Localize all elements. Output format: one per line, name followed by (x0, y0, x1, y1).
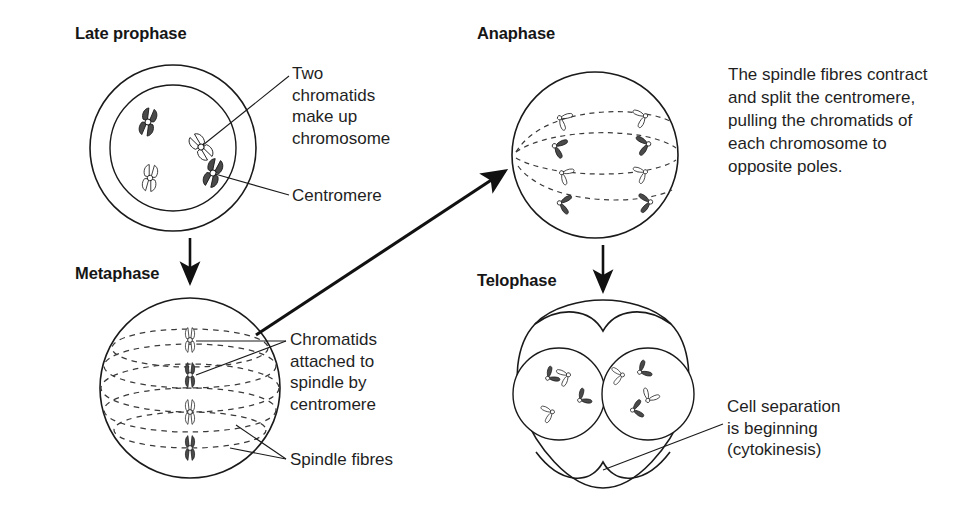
stage-heading-telophase: Telophase (477, 271, 556, 290)
mitosis-diagram: Late prophase Metaphase Anaphase Telopha… (0, 0, 953, 515)
stage-heading-metaphase: Metaphase (75, 264, 159, 283)
telophase-cell-group (513, 300, 723, 488)
anaphase-description-text: The spindle fibres contract and split th… (728, 63, 943, 178)
anaphase-cell-group (512, 72, 678, 238)
stage-heading-anaphase: Anaphase (477, 24, 555, 43)
label-centromere: Centromere (292, 185, 382, 207)
anaphase-cell-membrane (512, 72, 678, 238)
prophase-cell-group (90, 65, 289, 231)
prophase-nuclear-membrane (110, 85, 236, 211)
telophase-nucleus-left (513, 348, 605, 440)
label-cell-separation: Cell separation is beginning (cytokinesi… (727, 396, 840, 461)
stage-heading-late-prophase: Late prophase (75, 24, 186, 43)
metaphase-cell-group (100, 298, 286, 478)
label-chromatids-attached: Chromatids attached to spindle by centro… (290, 329, 377, 415)
label-spindle-fibres: Spindle fibres (290, 449, 393, 471)
label-two-chromatids: Two chromatids make up chromosome (292, 63, 390, 149)
